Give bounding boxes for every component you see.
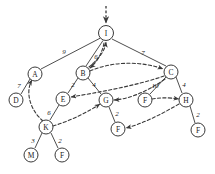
node-I[interactable]: I [99, 26, 114, 41]
node-D[interactable]: D [9, 93, 23, 107]
node-F-under-G[interactable]: F [111, 122, 125, 136]
node-label-H: H [183, 96, 189, 105]
weight-C-F: 10 [152, 82, 160, 90]
weight-B-G: 4 [92, 81, 96, 89]
edge-K-F4 [51, 133, 58, 148]
backedge-K-A [29, 80, 43, 121]
weight-K-F: 2 [58, 137, 62, 145]
weight-A-D: 7 [17, 82, 21, 90]
node-B[interactable]: B [76, 66, 90, 80]
edge-K-M [35, 133, 42, 148]
weight-I-C: 7 [141, 49, 145, 57]
node-label-F4: F [60, 151, 64, 160]
weight-E-K: 6 [47, 109, 51, 117]
node-A[interactable]: A [28, 67, 42, 81]
weight-H-F: 2 [196, 111, 200, 119]
edge-C-H [176, 77, 182, 93]
node-G[interactable]: G [99, 93, 113, 107]
weight-I-A: 9 [62, 48, 66, 56]
backedge-H-F2 [126, 104, 179, 128]
node-F-under-C[interactable]: F [138, 93, 152, 107]
node-C[interactable]: C [164, 65, 178, 79]
node-E[interactable]: E [56, 92, 70, 106]
backedge-F1-H [152, 98, 179, 99]
graph-svg: 9 6 7 7 2 4 10 4 6 2 2 3 2 I A [0, 0, 215, 174]
graph-diagram-canvas: 9 6 7 7 2 4 10 4 6 2 2 3 2 I A [0, 0, 215, 174]
node-H[interactable]: H [179, 93, 193, 107]
node-label-G: G [103, 96, 109, 105]
edge-G-F2 [109, 107, 115, 122]
node-label-A: A [32, 70, 38, 79]
node-label-F2: F [116, 125, 120, 134]
node-M[interactable]: M [24, 148, 38, 162]
node-label-C: C [168, 68, 173, 77]
node-label-E: E [61, 95, 66, 104]
node-K[interactable]: K [39, 120, 53, 134]
node-label-F3: F [196, 126, 200, 135]
weight-I-B: 6 [94, 53, 98, 61]
edge-E-K [50, 105, 59, 120]
node-label-K: K [43, 123, 49, 132]
node-F-under-K[interactable]: F [55, 148, 69, 162]
node-label-M: M [28, 151, 35, 160]
node-label-F1: F [143, 96, 147, 105]
backedge-K-G [53, 104, 100, 126]
node-label-B: B [80, 69, 85, 78]
backedge-B-C [90, 63, 163, 71]
weight-G-F: 2 [115, 110, 119, 118]
weight-K-M: 3 [30, 137, 35, 145]
weight-B-E: 2 [71, 81, 75, 89]
node-F-under-H[interactable]: F [191, 123, 205, 137]
weight-C-H: 4 [182, 81, 186, 89]
edge-H-F3 [190, 106, 195, 123]
node-label-D: D [13, 96, 19, 105]
edge-I-C [112, 39, 166, 66]
